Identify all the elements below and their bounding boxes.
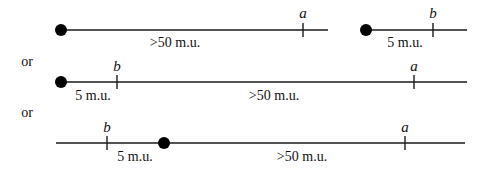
locus-a-label: a [299, 5, 307, 21]
or-connector-label: or [21, 54, 33, 69]
locus-a-label: a [410, 58, 418, 74]
locus-b-label: b [113, 58, 121, 74]
locus-b-label: b [429, 5, 437, 21]
locus-b-label: b [103, 119, 111, 135]
centromere-dot-icon [55, 76, 67, 88]
centromere-dot-icon [158, 137, 170, 149]
centromere-dot-icon [360, 24, 372, 36]
distance-label-near: 5 m.u. [387, 35, 422, 50]
distance-label-far: >50 m.u. [249, 88, 299, 103]
row-1-segment-left: a >50 m.u. [55, 5, 328, 50]
genetic-map-diagram: a >50 m.u. b 5 m.u. or b a 5 m.u. >50 m.… [0, 0, 491, 174]
distance-label-far: >50 m.u. [150, 35, 200, 50]
distance-label-near: 5 m.u. [117, 149, 152, 164]
locus-a-label: a [401, 119, 409, 135]
row-3-segment: b a 5 m.u. >50 m.u. [56, 119, 465, 164]
row-2-segment: b a 5 m.u. >50 m.u. [55, 58, 467, 103]
centromere-dot-icon [55, 24, 67, 36]
or-connector-label: or [21, 105, 33, 120]
distance-label-near: 5 m.u. [75, 88, 110, 103]
distance-label-far: >50 m.u. [277, 149, 327, 164]
row-1-segment-right: b 5 m.u. [360, 5, 467, 50]
